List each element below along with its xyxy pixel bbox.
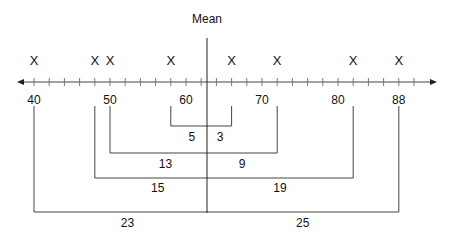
data-point-x-marker: X (273, 53, 282, 68)
deviation-brackets: 5313915192325 (34, 106, 399, 230)
mean-label: Mean (192, 12, 222, 26)
data-points: XXXXXXXX (30, 53, 404, 68)
deviation-label-right: 3 (217, 130, 224, 144)
deviation-label-left: 5 (188, 130, 195, 144)
data-point-x-marker: X (90, 53, 99, 68)
tick-label: 70 (255, 93, 269, 107)
data-point-x-marker: X (166, 53, 175, 68)
tick-label: 60 (179, 93, 193, 107)
arrow-right-icon (430, 79, 437, 85)
mean-line-group: Mean (192, 12, 222, 213)
deviation-label-right: 19 (273, 181, 287, 195)
data-point-x-marker: X (106, 53, 115, 68)
deviation-label-left: 15 (151, 181, 165, 195)
data-point-x-marker: X (227, 53, 236, 68)
data-point-x-marker: X (349, 53, 358, 68)
data-point-x-marker: X (394, 53, 403, 68)
deviation-bracket (171, 106, 232, 126)
tick-label: 88 (392, 93, 406, 107)
deviation-label-left: 13 (159, 157, 173, 171)
tick-label: 80 (331, 93, 345, 107)
deviation-bracket (95, 106, 353, 178)
deviation-label-left: 23 (121, 216, 135, 230)
deviation-label-right: 25 (296, 216, 310, 230)
mean-deviation-diagram: 405060708088 XXXXXXXX 5313915192325 Mean (0, 0, 450, 237)
tick-label: 40 (27, 93, 41, 107)
data-point-x-marker: X (30, 53, 39, 68)
tick-label: 50 (103, 93, 117, 107)
axis-tick-labels: 405060708088 (27, 93, 405, 107)
deviation-label-right: 9 (239, 157, 246, 171)
deviation-bracket (34, 106, 399, 212)
arrow-left-icon (17, 79, 24, 85)
